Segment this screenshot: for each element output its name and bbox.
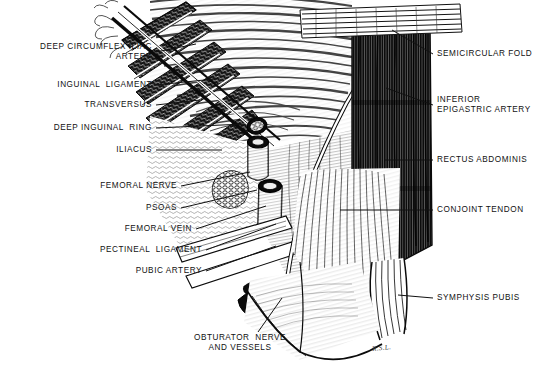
label-line: OBTURATOR NERVE [194,333,286,344]
label-psoas: PSOAS [146,203,177,214]
label-pectineal-ligament: PECTINEAL LIGAMENT [100,245,202,256]
label-line: PUBIC ARTERY [136,266,202,277]
label-line: FEMORAL VEIN [125,224,192,235]
label-line: DEEP CIRCUMFLEX ILIAC [40,42,152,53]
femoral-nerve-bundle [212,171,248,208]
label-symphysis-pubis: SYMPHYSIS PUBIS [437,293,520,304]
label-semicircular-fold: SEMICIRCULAR FOLD [437,49,532,60]
label-line: TRANSVERSUS [85,100,152,111]
femoral-artery-stump [248,136,269,180]
label-line: INGUINAL LIGAMENT [57,80,152,91]
label-line: CONJOINT TENDON [437,205,524,216]
label-line: PSOAS [146,203,177,214]
label-iliacus: ILIACUS [116,145,152,156]
label-line: EPIGASTRIC ARTERY [437,105,531,116]
label-inguinal-ligament: INGUINAL LIGAMENT [57,80,152,91]
label-rectus-abdominis: RECTUS ABDOMINIS [437,155,527,166]
label-femoral-vein: FEMORAL VEIN [125,224,192,235]
label-obturator-nerve-and-vessels: OBTURATOR NERVEAND VESSELS [194,333,286,354]
label-pubic-artery: PUBIC ARTERY [136,266,202,277]
label-line: FEMORAL NERVE [100,181,177,192]
label-femoral-nerve: FEMORAL NERVE [100,181,177,192]
label-conjoint-tendon: CONJOINT TENDON [437,205,524,216]
label-line: SYMPHYSIS PUBIS [437,293,520,304]
label-inferior-epigastric-artery: INFERIOREPIGASTRIC ARTERY [437,95,531,116]
label-line: SEMICIRCULAR FOLD [437,49,532,60]
label-line: PECTINEAL LIGAMENT [100,245,202,256]
label-deep-inguinal-ring: DEEP INGUINAL RING [54,123,152,134]
label-line: ILIACUS [116,145,152,156]
label-line: RECTUS ABDOMINIS [437,155,527,166]
semicircular-fold [300,4,462,38]
transversalis-fascia-upper [150,0,304,30]
label-line: ARTERY [40,52,152,63]
label-line: INFERIOR [437,95,531,106]
label-transversus: TRANSVERSUS [85,100,152,111]
label-deep-circumflex-iliac-artery: DEEP CIRCUMFLEX ILIACARTERY [40,42,152,63]
label-line: DEEP INGUINAL RING [54,123,152,134]
label-line: AND VESSELS [194,343,286,354]
